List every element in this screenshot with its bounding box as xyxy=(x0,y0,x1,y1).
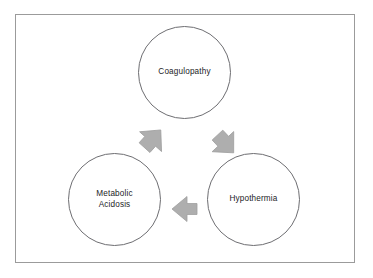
cycle-diagram: Coagulopathy Metabolic Acidosis Hypother… xyxy=(0,0,373,278)
node-coagulopathy[interactable]: Coagulopathy xyxy=(138,26,231,119)
node-metabolic-acidosis[interactable]: Metabolic Acidosis xyxy=(68,153,161,246)
node-hypothermia-label: Hypothermia xyxy=(229,194,277,205)
node-coagulopathy-label: Coagulopathy xyxy=(158,67,210,78)
node-hypothermia[interactable]: Hypothermia xyxy=(207,153,300,246)
node-metabolic-acidosis-label: Metabolic Acidosis xyxy=(96,189,132,210)
